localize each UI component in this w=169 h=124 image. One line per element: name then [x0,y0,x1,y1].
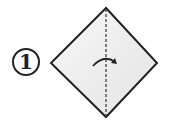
step-number: 1 [13,49,39,75]
paper-square [51,8,157,117]
